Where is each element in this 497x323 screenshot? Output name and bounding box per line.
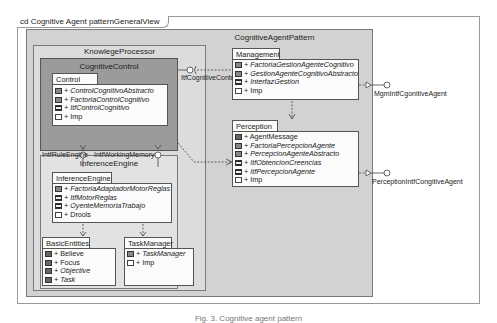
interface-label-mgm: MgmIntfCgonitiveAgent <box>374 90 447 98</box>
interface-label-perception: PerceptionIntfCongitiveAgent <box>372 178 463 186</box>
interface-label-working-memory: IntfWorkingMemory <box>94 151 155 159</box>
interface-label-itf-cognitive-control: ItfCognitiveContr <box>181 74 233 82</box>
interface-label-rule-engine: IntfRuleEngine <box>42 151 88 159</box>
figure-caption: Fig. 3. Cognitive agent pattern <box>0 314 497 323</box>
